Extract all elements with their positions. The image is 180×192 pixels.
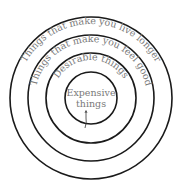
label-expensive-line1: Expensive <box>66 87 115 98</box>
label-expensive-line2: things <box>76 98 106 109</box>
concentric-diagram: Things that make you live longer Things … <box>0 0 180 192</box>
label-desirable: Desirable things <box>51 51 132 80</box>
pointer-mark-icon <box>85 111 86 128</box>
